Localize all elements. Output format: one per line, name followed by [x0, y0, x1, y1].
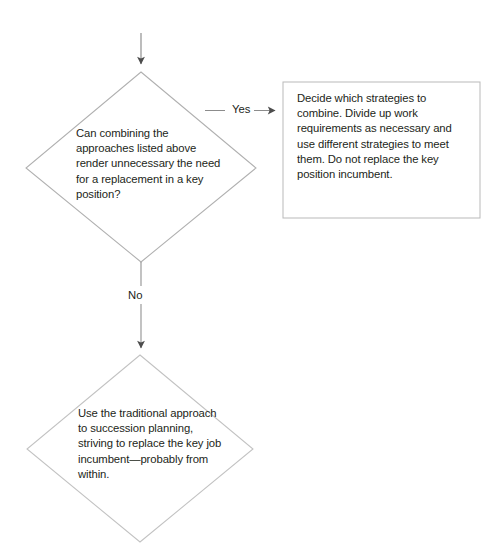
decision-primary-text: Can combining the approaches listed abov…: [76, 126, 228, 202]
flowchart-canvas: Can combining the approaches listed abov…: [0, 0, 499, 548]
decision-secondary-text: Use the traditional approach to successi…: [78, 406, 224, 482]
flowchart-vector-layer: [0, 0, 499, 548]
process-box-text: Decide which strategies to combine. Divi…: [297, 91, 469, 182]
edge-label-yes: Yes: [232, 103, 250, 116]
edge-label-no: No: [128, 289, 142, 302]
